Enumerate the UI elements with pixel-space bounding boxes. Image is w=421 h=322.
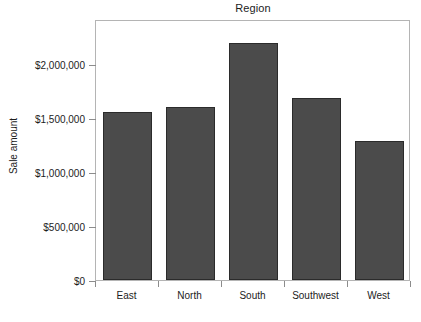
- y-axis-tick-mark: [89, 65, 96, 66]
- x-axis-tick-mark: [221, 281, 222, 287]
- y-axis-tick-mark: [89, 173, 96, 174]
- bar-east[interactable]: [103, 112, 152, 280]
- x-axis-tick-mark: [95, 281, 96, 287]
- y-axis-tick-label: $1,500,000: [1, 113, 85, 126]
- x-axis-label-west: West: [347, 289, 410, 303]
- x-axis-label-southwest: Southwest: [284, 289, 347, 303]
- chart-title: Region: [95, 1, 411, 15]
- x-axis-tick-mark: [284, 281, 285, 287]
- bar-west[interactable]: [355, 141, 404, 280]
- x-axis-label-east: East: [95, 289, 158, 303]
- bar-southwest[interactable]: [292, 98, 341, 280]
- y-axis-tick-label: $2,000,000: [1, 59, 85, 72]
- y-axis-tick-label: $500,000: [1, 221, 85, 234]
- bar-chart: Region Sale amount $0$500,000$1,000,000$…: [0, 0, 421, 322]
- x-axis-label-south: South: [221, 289, 284, 303]
- bar-north[interactable]: [166, 107, 215, 280]
- y-axis-tick-label: $1,000,000: [1, 167, 85, 180]
- x-axis-label-north: North: [158, 289, 221, 303]
- y-axis-tick-mark: [89, 119, 96, 120]
- plot-area: $0$500,000$1,000,000$1,500,000$2,000,000: [95, 20, 410, 281]
- x-axis-tick-mark: [347, 281, 348, 287]
- x-axis-tick-mark: [158, 281, 159, 287]
- plot-inner: $0$500,000$1,000,000$1,500,000$2,000,000: [96, 21, 409, 280]
- bar-south[interactable]: [229, 43, 278, 280]
- y-axis-tick-label: $0: [1, 275, 85, 288]
- x-axis-tick-mark: [410, 281, 411, 287]
- y-axis-tick-mark: [89, 227, 96, 228]
